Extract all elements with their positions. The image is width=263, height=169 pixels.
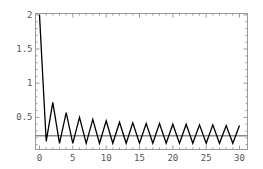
data-series-line <box>40 15 240 143</box>
x-tick-label: 0 <box>37 153 42 163</box>
x-tick-label: 30 <box>234 153 245 163</box>
x-tick-label: 10 <box>101 153 112 163</box>
y-tick-label: 1 <box>27 78 32 88</box>
y-axis-tick-labels: 0.511.52 <box>16 10 32 123</box>
y-tick-label: 0.5 <box>16 112 32 122</box>
plot-frame <box>36 14 248 150</box>
x-tick-label: 5 <box>70 153 75 163</box>
x-axis-tick-labels: 051015202530 <box>37 153 245 163</box>
x-tick-label: 20 <box>167 153 178 163</box>
x-tick-label: 15 <box>134 153 145 163</box>
y-axis-ticks <box>36 15 248 145</box>
y-tick-label: 2 <box>27 10 32 20</box>
y-tick-label: 1.5 <box>16 44 32 54</box>
x-tick-label: 25 <box>201 153 212 163</box>
line-chart: 051015202530 0.511.52 <box>0 0 263 169</box>
